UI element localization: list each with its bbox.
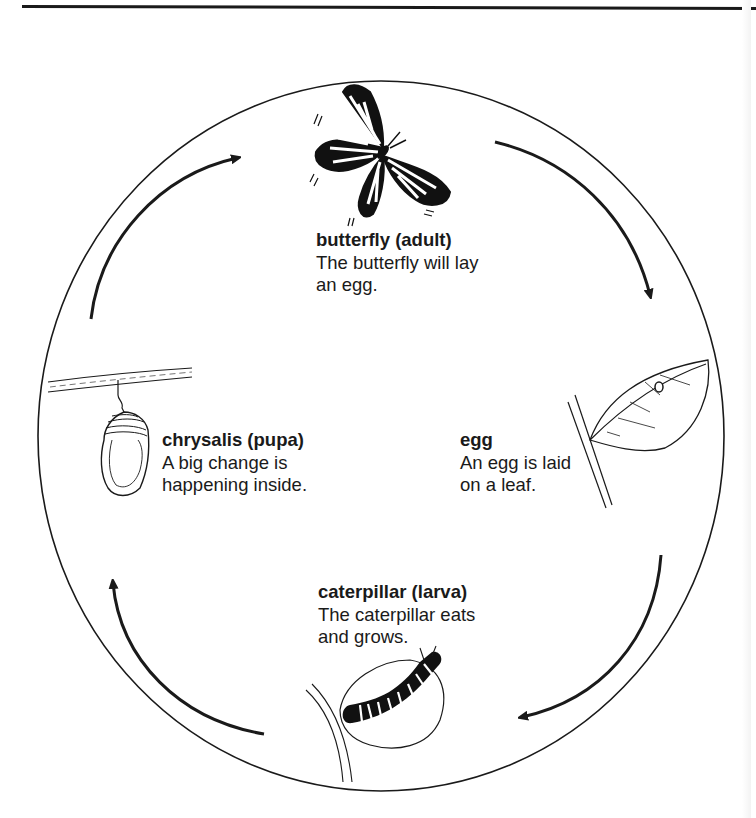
egg-on-leaf-icon [568, 360, 709, 508]
stage-title: egg [460, 429, 571, 452]
stage-description: An egg is laid [460, 452, 571, 475]
stage-description: and grows. [318, 626, 475, 649]
stage-description: A big change is [162, 452, 307, 475]
arrow-egg-to-larva [522, 555, 661, 717]
arrow-larva-to-pupa [113, 583, 264, 734]
stage-title: butterfly (adult) [316, 229, 478, 252]
caterpillar-icon [306, 646, 444, 782]
stage-description: The butterfly will lay [316, 252, 478, 275]
stage-description: an egg. [316, 274, 478, 297]
butterfly-icon [310, 85, 450, 226]
stage-label-adult: butterfly (adult) The butterfly will lay… [316, 229, 478, 297]
stage-title: chrysalis (pupa) [162, 429, 307, 452]
stage-label-pupa: chrysalis (pupa) A big change is happeni… [162, 429, 307, 497]
arrow-pupa-to-adult [91, 158, 237, 319]
stage-label-larva: caterpillar (larva) The caterpillar eats… [318, 581, 475, 649]
stage-title: caterpillar (larva) [318, 581, 475, 604]
arrow-adult-to-egg [495, 142, 650, 295]
stage-description: happening inside. [162, 474, 307, 497]
stage-label-egg: egg An egg is laid on a leaf. [460, 429, 571, 497]
stage-description: The caterpillar eats [318, 604, 475, 627]
stage-description: on a leaf. [460, 474, 571, 497]
